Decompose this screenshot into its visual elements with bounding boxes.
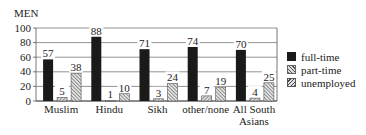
bar-value-label: 70 — [235, 38, 247, 50]
unemployed-swatch-icon — [287, 78, 296, 87]
bar-value-label: 10 — [119, 82, 131, 94]
legend-item-unemployed: unemployed — [287, 76, 355, 89]
x-category-label: All South — [233, 103, 276, 115]
x-category-label: Hindu — [96, 103, 124, 115]
bar-value-label: 25 — [263, 71, 275, 83]
y-tick-label: 60 — [20, 51, 32, 63]
bar-value-label: 7 — [204, 84, 210, 96]
legend-label: part-time — [301, 64, 341, 76]
bar-value-label: 4 — [252, 86, 258, 98]
bar-value-label: 38 — [71, 61, 83, 73]
y-tick-label: 80 — [20, 36, 32, 48]
legend-item-part-time: part-time — [287, 63, 355, 76]
y-tick-label: 0 — [26, 95, 32, 107]
legend-label: unemployed — [301, 77, 355, 89]
bar-value-label: 71 — [139, 37, 150, 49]
bar-unemployed — [216, 87, 226, 101]
bar-value-label: 3 — [156, 87, 162, 99]
x-category-label: Muslim — [44, 103, 79, 115]
bar-unemployed — [119, 94, 129, 101]
bar-unemployed — [168, 83, 178, 101]
bar-full-time — [140, 49, 150, 101]
bar-full-time — [188, 47, 198, 101]
bar-value-label: 19 — [215, 75, 227, 87]
bar-part-time — [202, 96, 212, 101]
bar-value-label: 1 — [108, 88, 114, 100]
bar-full-time — [91, 37, 101, 101]
bars: 5753888110713247471970425 — [41, 25, 276, 102]
bar-part-time — [250, 98, 260, 101]
y-tick-label: 20 — [20, 80, 32, 92]
y-tick-label: 40 — [20, 65, 32, 77]
bar-value-label: 88 — [91, 25, 103, 37]
bar-full-time — [43, 59, 53, 101]
x-category-label: Asians — [239, 115, 269, 127]
y-tick-label: 100 — [15, 22, 32, 34]
x-category-label: other/none — [182, 103, 229, 115]
x-axis-labels: MuslimHinduSikhother/noneAll SouthAsians — [44, 103, 276, 127]
bar-full-time — [236, 50, 246, 101]
bar-part-time — [105, 100, 115, 101]
part-time-swatch-icon — [287, 65, 296, 74]
bar-part-time — [154, 99, 164, 101]
bar-value-label: 24 — [167, 71, 179, 83]
legend-label: full-time — [301, 51, 340, 63]
legend-item-full-time: full-time — [287, 50, 355, 63]
x-category-label: Sikh — [147, 103, 168, 115]
full-time-swatch-icon — [287, 52, 296, 61]
bar-unemployed — [71, 73, 81, 101]
bar-unemployed — [264, 83, 274, 101]
bar-value-label: 57 — [43, 47, 55, 59]
bar-part-time — [57, 97, 67, 101]
bar-value-label: 5 — [59, 85, 65, 97]
bar-value-label: 74 — [187, 35, 199, 47]
legend: full-time part-time unemployed — [287, 50, 355, 89]
